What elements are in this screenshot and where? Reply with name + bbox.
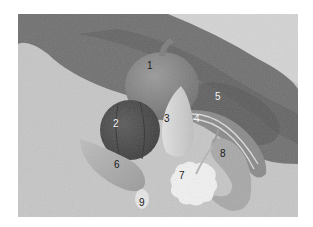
label-4: 4 — [194, 113, 200, 124]
label-9: 9 — [139, 197, 145, 208]
label-3: 3 — [164, 113, 170, 124]
label-5: 5 — [215, 91, 221, 102]
label-2: 2 — [113, 118, 119, 129]
label-8: 8 — [220, 148, 226, 159]
label-6: 6 — [114, 159, 120, 170]
label-1: 1 — [147, 60, 153, 71]
film-grain — [18, 14, 298, 217]
label-7: 7 — [179, 170, 185, 181]
squash-photo: 1 2 3 4 5 6 7 8 9 — [18, 14, 298, 217]
